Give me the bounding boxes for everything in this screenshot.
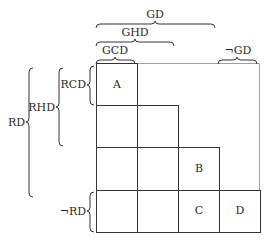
gcd-brace	[96, 57, 135, 64]
not-rd-brace	[87, 192, 94, 232]
rd-label: RD	[8, 117, 25, 129]
column-braces	[96, 21, 257, 64]
not-gd-label: ¬GD	[225, 45, 252, 57]
cell-c: C	[195, 205, 203, 217]
not-gd-brace	[218, 57, 257, 64]
rhd-label: RHD	[28, 102, 55, 114]
not-rd-label: ¬RD	[60, 206, 86, 218]
rcd-label: RCD	[60, 79, 86, 91]
gd-brace	[96, 21, 215, 28]
cell-d: D	[236, 205, 245, 217]
rd-brace	[26, 68, 33, 197]
rcd-brace	[87, 66, 94, 105]
ghd-label: GHD	[121, 27, 148, 39]
cell-b: B	[195, 163, 203, 175]
cell-a: A	[113, 79, 121, 91]
gd-label: GD	[146, 9, 164, 21]
gcd-label: GCD	[102, 45, 128, 57]
